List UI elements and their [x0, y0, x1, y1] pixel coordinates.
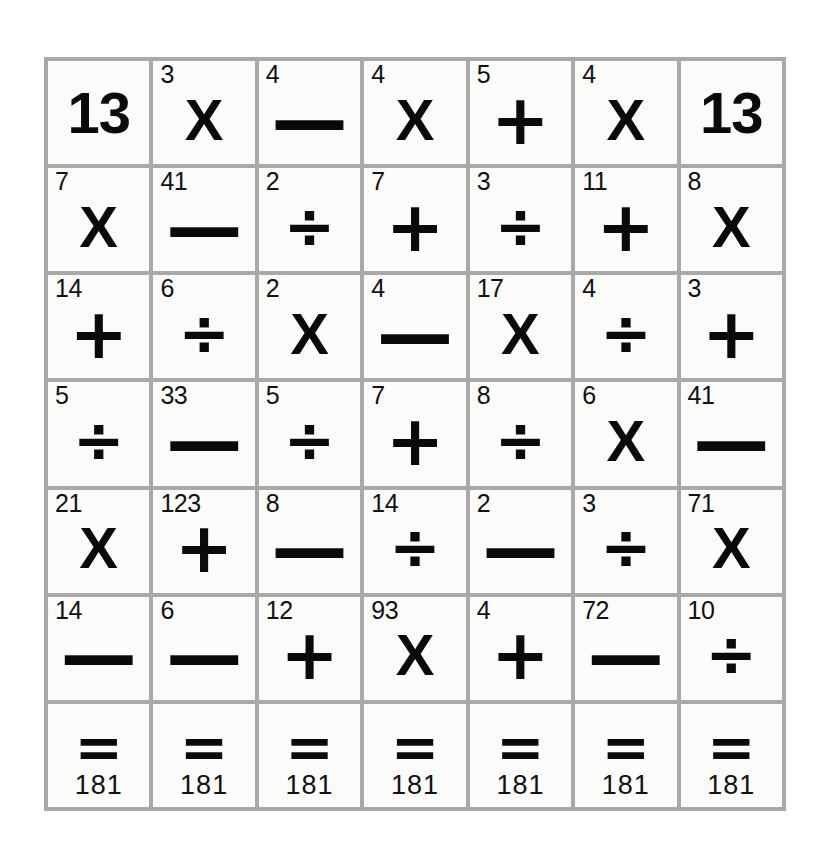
- term-cell[interactable]: 4X: [575, 61, 676, 164]
- operator-divide-icon: ÷: [259, 382, 360, 485]
- term-cell[interactable]: 7+: [364, 382, 465, 485]
- operator-divide-icon: ÷: [681, 597, 782, 700]
- term-cell[interactable]: 3+: [681, 275, 782, 378]
- term-cell[interactable]: 12+: [259, 597, 360, 700]
- operator-minus-icon: —: [364, 275, 465, 378]
- operator-times-icon: X: [153, 61, 254, 164]
- operator-divide-icon: ÷: [48, 382, 149, 485]
- operator-divide-icon: ÷: [470, 382, 571, 485]
- term-cell[interactable]: 41—: [681, 382, 782, 485]
- equals-icon: =: [153, 718, 254, 776]
- operator-plus-icon: +: [48, 275, 149, 378]
- term-cell[interactable]: 7+: [364, 168, 465, 271]
- term-cell[interactable]: 8X: [681, 168, 782, 271]
- result-cell[interactable]: =181: [153, 704, 254, 807]
- puzzle-grid: 133X4—4X5+4X137X41—2÷7+3÷11+8X14+6÷2X4—1…: [44, 57, 786, 811]
- term-cell[interactable]: 4X: [364, 61, 465, 164]
- operator-times-icon: X: [470, 275, 571, 378]
- operator-times-icon: X: [575, 382, 676, 485]
- equals-icon: =: [364, 718, 465, 776]
- operator-plus-icon: +: [470, 61, 571, 164]
- target-cell[interactable]: 13: [681, 61, 782, 164]
- term-cell[interactable]: 6X: [575, 382, 676, 485]
- result-cell[interactable]: =181: [681, 704, 782, 807]
- term-cell[interactable]: 21X: [48, 490, 149, 593]
- term-cell[interactable]: 3X: [153, 61, 254, 164]
- operator-plus-icon: +: [364, 168, 465, 271]
- term-cell[interactable]: 72—: [575, 597, 676, 700]
- term-cell[interactable]: 123+: [153, 490, 254, 593]
- term-cell[interactable]: 71X: [681, 490, 782, 593]
- result-cell[interactable]: =181: [364, 704, 465, 807]
- term-cell[interactable]: 14+: [48, 275, 149, 378]
- result-cell[interactable]: =181: [48, 704, 149, 807]
- target-number: 13: [48, 61, 149, 164]
- operator-times-icon: X: [364, 597, 465, 700]
- term-cell[interactable]: 11+: [575, 168, 676, 271]
- term-cell[interactable]: 4—: [364, 275, 465, 378]
- result-total: 181: [364, 772, 465, 799]
- term-cell[interactable]: 2÷: [259, 168, 360, 271]
- result-total: 181: [153, 772, 254, 799]
- term-cell[interactable]: 8÷: [470, 382, 571, 485]
- term-cell[interactable]: 41—: [153, 168, 254, 271]
- operator-times-icon: X: [681, 490, 782, 593]
- result-total: 181: [470, 772, 571, 799]
- term-cell[interactable]: 3÷: [575, 490, 676, 593]
- term-cell[interactable]: 4+: [470, 597, 571, 700]
- operator-minus-icon: —: [681, 382, 782, 485]
- term-cell[interactable]: 3÷: [470, 168, 571, 271]
- operator-plus-icon: +: [364, 382, 465, 485]
- target-cell[interactable]: 13: [48, 61, 149, 164]
- operator-minus-icon: —: [259, 490, 360, 593]
- term-cell[interactable]: 2X: [259, 275, 360, 378]
- operator-plus-icon: +: [153, 490, 254, 593]
- equals-icon: =: [48, 718, 149, 776]
- operator-times-icon: X: [681, 168, 782, 271]
- term-cell[interactable]: 14÷: [364, 490, 465, 593]
- operator-plus-icon: +: [470, 597, 571, 700]
- operator-times-icon: X: [48, 490, 149, 593]
- term-cell[interactable]: 17X: [470, 275, 571, 378]
- term-cell[interactable]: 4—: [259, 61, 360, 164]
- result-cell[interactable]: =181: [575, 704, 676, 807]
- operator-minus-icon: —: [470, 490, 571, 593]
- term-cell[interactable]: 6÷: [153, 275, 254, 378]
- operator-divide-icon: ÷: [153, 275, 254, 378]
- term-cell[interactable]: 2—: [470, 490, 571, 593]
- operator-plus-icon: +: [681, 275, 782, 378]
- term-cell[interactable]: 93X: [364, 597, 465, 700]
- operator-times-icon: X: [259, 275, 360, 378]
- operator-plus-icon: +: [575, 168, 676, 271]
- operator-divide-icon: ÷: [575, 490, 676, 593]
- term-cell[interactable]: 33—: [153, 382, 254, 485]
- term-cell[interactable]: 6—: [153, 597, 254, 700]
- equals-icon: =: [575, 718, 676, 776]
- operator-divide-icon: ÷: [259, 168, 360, 271]
- operator-times-icon: X: [364, 61, 465, 164]
- term-cell[interactable]: 7X: [48, 168, 149, 271]
- term-cell[interactable]: 10÷: [681, 597, 782, 700]
- term-cell[interactable]: 5+: [470, 61, 571, 164]
- term-cell[interactable]: 5÷: [259, 382, 360, 485]
- operator-plus-icon: +: [259, 597, 360, 700]
- operator-divide-icon: ÷: [470, 168, 571, 271]
- result-cell[interactable]: =181: [470, 704, 571, 807]
- result-cell[interactable]: =181: [259, 704, 360, 807]
- target-number: 13: [681, 61, 782, 164]
- operator-minus-icon: —: [259, 61, 360, 164]
- term-cell[interactable]: 4÷: [575, 275, 676, 378]
- operator-minus-icon: —: [153, 597, 254, 700]
- result-total: 181: [259, 772, 360, 799]
- equals-icon: =: [259, 718, 360, 776]
- result-total: 181: [48, 772, 149, 799]
- term-cell[interactable]: 8—: [259, 490, 360, 593]
- operator-times-icon: X: [575, 61, 676, 164]
- operator-minus-icon: —: [153, 168, 254, 271]
- equals-icon: =: [681, 718, 782, 776]
- puzzle-sheet: 133X4—4X5+4X137X41—2÷7+3÷11+8X14+6÷2X4—1…: [0, 0, 820, 862]
- term-cell[interactable]: 5÷: [48, 382, 149, 485]
- operator-divide-icon: ÷: [364, 490, 465, 593]
- term-cell[interactable]: 14—: [48, 597, 149, 700]
- operator-divide-icon: ÷: [575, 275, 676, 378]
